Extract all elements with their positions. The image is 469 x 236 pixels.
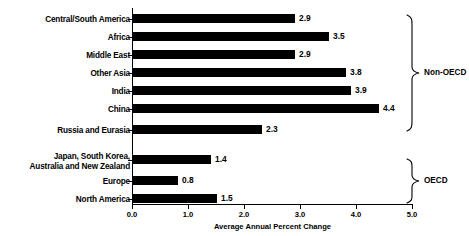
y-tick-7 xyxy=(128,160,132,161)
bar-central-south-america xyxy=(133,14,295,23)
category-label-europe: Europe xyxy=(0,177,130,187)
bar-north-america xyxy=(133,194,217,203)
bar-chart: Central/South America Africa Middle East… xyxy=(0,0,469,236)
bar-africa xyxy=(133,32,329,41)
x-tick-1 xyxy=(188,205,189,209)
x-tick-2 xyxy=(244,205,245,209)
bar-india xyxy=(133,86,351,95)
x-tick-label-5: 5.0 xyxy=(400,210,424,219)
bar-china xyxy=(133,104,379,113)
y-tick-4 xyxy=(128,91,132,92)
x-tick-label-3: 3.0 xyxy=(288,210,312,219)
category-label-central-south-america: Central/South America xyxy=(0,15,130,25)
bar-other-asia xyxy=(133,68,346,77)
bar-value-japan-south-korea-australia-new-zealand: 1.4 xyxy=(215,155,227,164)
bar-value-north-america: 1.5 xyxy=(221,194,233,203)
bar-value-central-south-america: 2.9 xyxy=(299,14,311,23)
y-tick-0 xyxy=(128,19,132,20)
category-label-other-asia: Other Asia xyxy=(0,69,130,79)
bar-value-russia-and-eurasia: 2.3 xyxy=(266,125,278,134)
bracket-label-non-oecd: Non-OECD xyxy=(424,68,466,77)
x-tick-label-4: 4.0 xyxy=(344,210,368,219)
bar-value-india: 3.9 xyxy=(355,86,367,95)
bar-russia-and-eurasia xyxy=(133,125,262,134)
y-tick-9 xyxy=(128,199,132,200)
x-axis-title: Average Annual Percent Change xyxy=(132,222,413,231)
y-tick-3 xyxy=(128,73,132,74)
bar-europe xyxy=(133,176,178,185)
bar-japan-south-korea-australia-new-zealand xyxy=(133,155,211,164)
x-tick-3 xyxy=(300,205,301,209)
bar-middle-east xyxy=(133,50,295,59)
bar-value-europe: 0.8 xyxy=(182,176,194,185)
bar-value-china: 4.4 xyxy=(383,104,395,113)
x-tick-5 xyxy=(412,205,413,209)
y-tick-5 xyxy=(128,109,132,110)
x-tick-0 xyxy=(132,205,133,209)
category-label-africa: Africa xyxy=(0,33,130,43)
category-label-russia-and-eurasia: Russia and Eurasia xyxy=(0,126,130,136)
category-label-india: India xyxy=(0,87,130,97)
x-tick-label-1: 1.0 xyxy=(176,210,200,219)
bracket-label-oecd: OECD xyxy=(424,176,448,185)
x-tick-4 xyxy=(356,205,357,209)
y-tick-8 xyxy=(128,181,132,182)
category-label-japan-south-korea-australia-new-zealand: Japan, South Korea, Australia and New Ze… xyxy=(0,152,130,171)
category-label-north-america: North America xyxy=(0,195,130,205)
category-label-china: China xyxy=(0,105,130,115)
bracket-non-oecd xyxy=(404,14,422,132)
x-tick-label-2: 2.0 xyxy=(232,210,256,219)
y-tick-2 xyxy=(128,55,132,56)
x-axis-line xyxy=(132,204,413,205)
x-tick-label-0: 0.0 xyxy=(120,210,144,219)
bar-value-middle-east: 2.9 xyxy=(299,50,311,59)
bracket-oecd xyxy=(404,158,422,204)
bar-value-other-asia: 3.8 xyxy=(350,68,362,77)
bar-value-africa: 3.5 xyxy=(333,32,345,41)
y-tick-1 xyxy=(128,37,132,38)
y-tick-6 xyxy=(128,130,132,131)
category-label-middle-east: Middle East xyxy=(0,51,130,61)
